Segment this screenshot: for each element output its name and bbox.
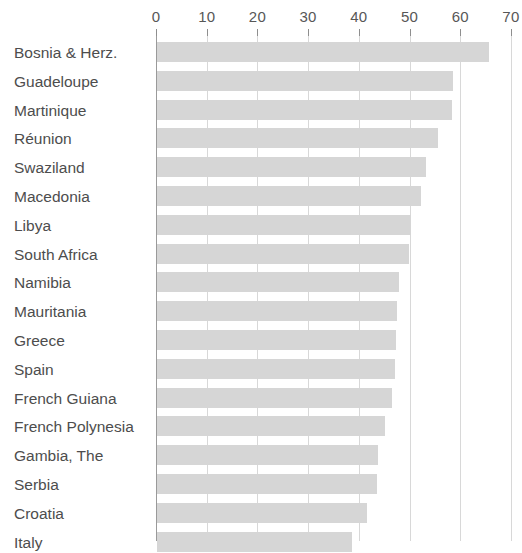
category-label: French Polynesia [14,417,134,437]
category-label: Macedonia [14,187,90,207]
bar [157,272,399,292]
tick-mark-60 [460,29,461,36]
x-tick-label: 30 [300,8,317,25]
category-label: Libya [14,216,51,236]
plot-area: 010203040506070 [156,36,511,541]
category-label: Guadeloupe [14,72,98,92]
bar [157,532,352,552]
bar [157,71,453,91]
category-label: French Guiana [14,389,117,409]
category-label: Namibia [14,273,71,293]
category-label: Greece [14,331,65,351]
bar [157,416,385,436]
tick-mark-30 [308,29,309,36]
category-label: Italy [14,533,42,553]
tick-mark-70 [511,29,512,36]
category-label: South Africa [14,245,98,265]
bar [157,128,438,148]
bar [157,330,396,350]
category-label: Croatia [14,504,64,524]
bar [157,100,452,120]
bar [157,157,426,177]
category-label: Réunion [14,129,72,149]
x-tick-label: 20 [249,8,266,25]
x-tick-label: 40 [350,8,367,25]
bar [157,388,392,408]
bar [157,42,489,62]
gridline-70 [511,36,512,541]
bar [157,186,421,206]
gridline-60 [460,36,461,541]
x-tick-label: 70 [502,8,519,25]
category-label: Bosnia & Herz. [14,43,117,63]
tick-mark-0 [156,29,157,36]
bar [157,244,409,264]
x-tick-label: 60 [452,8,469,25]
bar [157,301,397,321]
bar [157,445,378,465]
tick-mark-40 [359,29,360,36]
x-tick-label: 10 [198,8,215,25]
bar [157,359,395,379]
x-tick-label: 0 [152,8,161,25]
bar [157,503,367,523]
bar [157,474,377,494]
bar [157,215,411,235]
tick-mark-10 [207,29,208,36]
category-label: Gambia, The [14,446,103,466]
tick-mark-50 [410,29,411,36]
category-label: Mauritania [14,302,86,322]
category-label: Swaziland [14,158,85,178]
category-label: Martinique [14,101,86,121]
category-label: Spain [14,360,54,380]
category-label: Serbia [14,475,59,495]
tick-mark-20 [257,29,258,36]
x-tick-label: 50 [401,8,418,25]
